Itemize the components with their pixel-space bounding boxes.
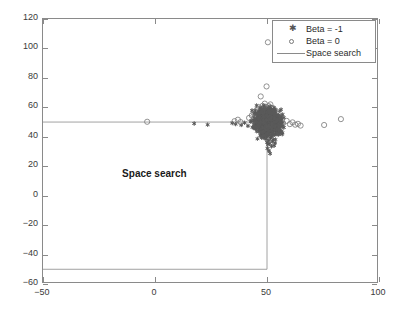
y-tick-label: −20 [23,219,38,228]
x-tick-mark [43,19,44,24]
y-tick-label: 20 [28,160,38,169]
y-tick-mark [43,196,48,197]
x-tick-label: 50 [261,288,271,297]
legend-item-beta-minus-1: ✱ Beta = -1 [276,23,372,35]
x-tick-mark [155,19,156,24]
y-tick-mark [43,78,48,79]
y-tick-mark [43,225,48,226]
legend-item-beta-0: Beta = 0 [276,35,372,47]
y-tick-label: −40 [23,249,38,258]
data-point [265,40,270,45]
data-point [322,122,327,127]
line-marker-icon [276,47,306,59]
data-point [338,117,343,122]
y-tick-label: 0 [33,190,38,199]
x-tick-mark [43,277,44,282]
y-tick-mark [372,196,377,197]
space-search-annotation: Space search [122,168,187,179]
legend-label-beta-0: Beta = 0 [306,37,340,46]
circle-open-marker-icon [276,35,306,47]
data-point [232,119,237,124]
y-tick-mark [372,78,377,79]
data-point [273,141,277,145]
data-point [274,138,277,142]
data-point [206,123,210,127]
y-tick-label: 40 [28,131,38,140]
star-marker-icon: ✱ [276,23,306,35]
y-tick-mark [43,107,48,108]
y-tick-label: −60 [23,278,38,287]
x-tick-mark [267,19,268,24]
y-tick-mark [372,166,377,167]
y-tick-mark [372,137,377,138]
legend-item-space-search: Space search [276,47,372,59]
y-tick-mark [43,48,48,49]
y-tick-label: 120 [23,13,38,22]
y-tick-mark [372,225,377,226]
x-tick-mark [379,19,380,24]
y-tick-mark [372,255,377,256]
figure-container: −60−40−20020406080100120 −50050100 Space… [0,0,404,314]
data-point [256,137,259,141]
x-tick-label: 0 [151,288,156,297]
y-tick-mark [372,284,377,285]
data-point [258,94,263,99]
y-tick-mark [43,284,48,285]
x-tick-label: 100 [370,288,385,297]
x-tick-label: −50 [34,288,49,297]
y-tick-label: 100 [23,42,38,51]
x-tick-mark [379,277,380,282]
data-point [264,84,269,89]
x-tick-mark [267,277,268,282]
y-tick-label: 60 [28,101,38,110]
legend-label-beta-minus-1: Beta = -1 [306,25,343,34]
y-tick-mark [372,107,377,108]
y-tick-mark [43,166,48,167]
y-tick-mark [43,255,48,256]
y-tick-label: 80 [28,72,38,81]
x-tick-mark [155,277,156,282]
y-tick-mark [43,137,48,138]
legend-box: ✱ Beta = -1 Beta = 0 Space search [272,20,376,63]
data-point [246,124,250,128]
space-search-boundary [43,122,267,269]
legend-label-space-search: Space search [306,49,361,58]
